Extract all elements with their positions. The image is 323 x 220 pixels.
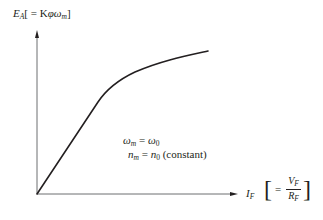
right-bracket: ] (303, 177, 311, 201)
x-axis-arrow-icon (230, 192, 238, 196)
left-bracket: [ (264, 177, 272, 201)
fraction-vf-rf: VF RF (286, 176, 301, 202)
y-axis-arrow-icon (35, 30, 39, 38)
magnetization-curve (37, 51, 208, 194)
denominator-sub: F (294, 194, 299, 203)
omega-m: ω (123, 134, 131, 146)
n-eq: = (139, 148, 151, 160)
x-axis-label: IF (246, 188, 254, 201)
y-axis-label: EA[ = Kφωm] (13, 8, 71, 21)
magnetization-curve-diagram: EA[ = Kφωm] ωm = ω0 nm = n0 (constant) I… (0, 0, 323, 220)
y-label-close: ] (67, 7, 71, 19)
y-label-main: E (13, 7, 20, 19)
omega-0-sub: 0 (156, 139, 160, 148)
annotation-omega: ωm = ω0 (123, 135, 159, 148)
annotation-speed: nm = n0 (constant) (128, 149, 207, 162)
fraction-denominator: RF (286, 190, 301, 203)
fraction-numerator: VF (286, 176, 301, 190)
y-label-eq: [ = K (24, 7, 47, 19)
omega-0: ω (148, 134, 156, 146)
x-axis-bracket-expression: [ = VF RF ] (264, 176, 311, 202)
constant-note: (constant) (160, 148, 207, 160)
y-label-omega: ω (54, 7, 62, 19)
bracket-eq: = (275, 184, 281, 195)
omega-eq: = (136, 134, 148, 146)
x-label-sub: F (250, 192, 255, 201)
numerator-sub: F (294, 179, 299, 188)
